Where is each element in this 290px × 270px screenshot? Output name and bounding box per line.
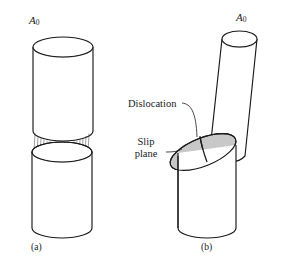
slip-plane-label: Slip plane	[126, 136, 166, 160]
area-label-a0-left-symbol: A	[29, 14, 36, 26]
area-label-a0-left-subscript: 0	[36, 18, 40, 27]
panel-b-graphic	[165, 31, 257, 238]
area-label-a0-right-subscript: 0	[243, 15, 247, 24]
panel-caption-a: (a)	[31, 243, 42, 253]
cylinder-a-lower-body	[32, 152, 92, 238]
dislocation-label: Dislocation	[128, 98, 176, 109]
figure-root: A0 A0 Dislocation Slip plane (a) (b)	[0, 0, 290, 270]
slip-plane-label-line-1: Slip	[126, 136, 166, 148]
area-label-a0-right-symbol: A	[236, 11, 243, 23]
slip-deformation-diagram	[0, 0, 290, 270]
slip-plane-label-line-2: plane	[126, 148, 166, 160]
area-label-a0-right: A0	[236, 12, 246, 24]
area-label-a0-left: A0	[29, 15, 39, 27]
cylinder-b-lower-body	[178, 145, 236, 238]
panel-a-graphic	[32, 37, 93, 238]
cylinder-a-upper-body	[33, 47, 93, 141]
cylinder-b-upper-top-ellipse	[222, 31, 257, 47]
cylinder-a-upper-top-ellipse	[33, 37, 93, 57]
panel-caption-b: (b)	[201, 243, 212, 253]
dislocation-leader-line	[182, 103, 197, 137]
